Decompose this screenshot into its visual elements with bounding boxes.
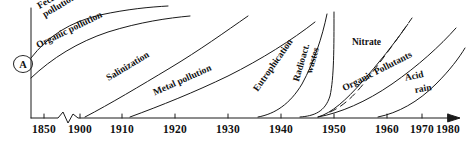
chart-plot-area bbox=[0, 0, 468, 143]
x-axis-tick-label: 1900 bbox=[60, 123, 100, 135]
x-axis-tick-label: 1920 bbox=[155, 123, 195, 135]
x-axis-tick-label: 1850 bbox=[24, 123, 64, 135]
curve-organic-pollution bbox=[31, 16, 190, 78]
figure-container: A Fecal pollution Organic pollution Sali… bbox=[0, 0, 468, 143]
x-axis-tick-label: 1930 bbox=[208, 123, 248, 135]
x-axis-arrowhead bbox=[448, 114, 460, 122]
x-axis-tick-label: 1980 bbox=[428, 123, 468, 135]
x-axis-tick-label: 1950 bbox=[314, 123, 354, 135]
x-axis-tick-label: 1910 bbox=[102, 123, 142, 135]
curve-organic-pollutants bbox=[318, 28, 456, 117]
curve-label-nitrate: Nitrate bbox=[352, 38, 381, 48]
x-axis-tick-label: 1940 bbox=[261, 123, 301, 135]
x-axis-tick-label: 1960 bbox=[367, 123, 407, 135]
panel-letter-badge: A bbox=[13, 55, 33, 73]
